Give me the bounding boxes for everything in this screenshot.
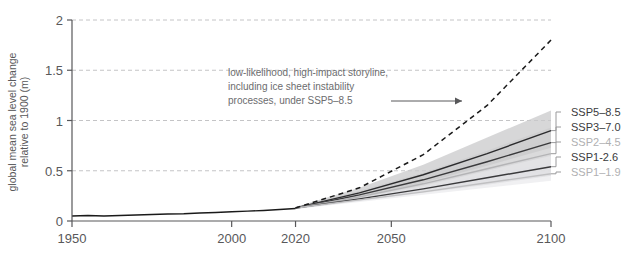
uncertainty-bands (296, 110, 551, 208)
legend-label: SSP1-2.6 (571, 151, 618, 163)
annotation-low-likelihood: low-likelihood, high-impact storyline, i… (228, 67, 462, 106)
x-tick-label: 2050 (377, 231, 406, 246)
y-tick-label: 2 (56, 13, 63, 28)
annotation-line-2: including ice sheet instability (228, 81, 354, 92)
legend-bracket (551, 127, 561, 143)
legend-bracket (551, 142, 561, 154)
y-axis-title-part1: global mean sea level change (6, 52, 18, 191)
x-tick-label: 1950 (58, 231, 87, 246)
annotation-line-3: processes, under SSP5–8.5 (228, 95, 353, 106)
y-tick-label: 1 (56, 114, 63, 129)
legend-bracket (551, 157, 561, 167)
y-axis-title-part2: relative to 1900 (m) (18, 77, 30, 167)
y-tick-label: 0 (56, 214, 63, 229)
legend: SSP5–8.5SSP3–7.0SSP2–4.5SSP1-2.6SSP1–1.9 (551, 106, 621, 178)
legend-label: SSP1–1.9 (571, 166, 621, 178)
chart-container: 00.511.52 19502000202020502100 global me… (0, 0, 623, 259)
legend-bracket (551, 172, 561, 174)
y-tick-label: 1.5 (45, 63, 63, 78)
legend-label: SSP5–8.5 (571, 106, 621, 118)
y-axis-ticks: 00.511.52 (45, 13, 72, 229)
x-tick-label: 2020 (281, 231, 310, 246)
annotation-arrow-icon (391, 98, 462, 105)
legend-label: SSP3–7.0 (571, 121, 621, 133)
legend-label: SSP2–4.5 (571, 136, 621, 148)
x-axis-ticks: 19502000202020502100 (58, 221, 566, 246)
x-tick-label: 2000 (217, 231, 246, 246)
annotation-line-1: low-likelihood, high-impact storyline, (228, 67, 388, 78)
legend-item: SSP1-2.6 (551, 151, 618, 167)
sea-level-chart: 00.511.52 19502000202020502100 global me… (0, 0, 623, 259)
x-tick-label: 2100 (537, 231, 566, 246)
y-tick-label: 0.5 (45, 164, 63, 179)
legend-item: SSP1–1.9 (551, 166, 621, 178)
historical-line (72, 208, 296, 216)
